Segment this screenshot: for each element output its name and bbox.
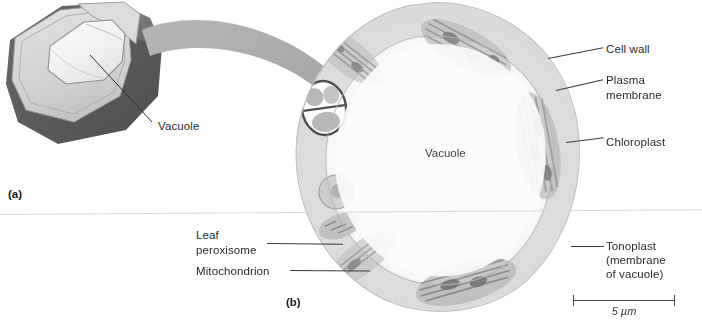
figure-plant-cell-vacuole: (a) Vacuole: [0, 0, 702, 327]
scale-bar: 5 µm: [573, 292, 675, 322]
scale-bar-label: 5 µm: [573, 305, 675, 317]
label-tonoplast-line1: Tonoplast: [606, 239, 656, 254]
scale-bar-line: [573, 300, 675, 301]
electron-micrograph-plant-cell: [270, 0, 600, 326]
leader-line-tonoplast: [571, 246, 604, 247]
label-cell-wall: Cell wall: [606, 42, 650, 57]
label-tonoplast-line2: (membrane: [606, 253, 666, 268]
panel-b-tag: (b): [286, 296, 301, 308]
label-plasma-membrane-line1: Plasma: [606, 73, 645, 88]
label-mitochondrion: Mitochondrion: [196, 264, 270, 279]
panel-a-tag: (a): [8, 188, 22, 200]
label-tonoplast-line3: of vacuole): [606, 267, 663, 282]
label-chloroplast: Chloroplast: [606, 135, 665, 150]
label-leaf-peroxisome-line2: peroxisome: [196, 243, 256, 258]
label-leaf-peroxisome-line1: Leaf: [196, 228, 219, 243]
label-plasma-membrane-line2: membrane: [606, 88, 662, 103]
label-vacuole-micrograph: Vacuole: [425, 147, 466, 159]
